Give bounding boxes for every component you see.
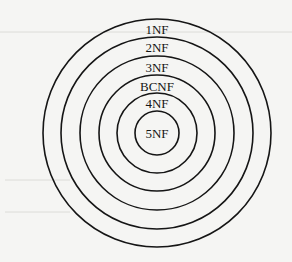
label-2nf: 2NF [145, 40, 168, 55]
concentric-rings-canvas: 1NF 2NF 3NF BCNF 4NF 5NF [0, 0, 292, 262]
normal-forms-diagram: 1NF 2NF 3NF BCNF 4NF 5NF [0, 0, 292, 262]
label-5nf: 5NF [145, 126, 168, 141]
label-4nf: 4NF [145, 96, 168, 111]
label-1nf: 1NF [145, 22, 168, 37]
label-bcnf: BCNF [140, 79, 174, 94]
label-3nf: 3NF [145, 60, 168, 75]
